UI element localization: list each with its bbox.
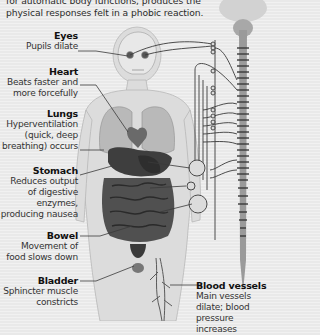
label-stomach-line-4: producing nausea [1, 209, 78, 220]
label-stomach-title: Stomach [1, 165, 78, 176]
label-heart: Heart Beats faster and more forcefully [7, 66, 78, 99]
label-heart-line-2: more forcefully [7, 88, 78, 99]
spinal-cord [219, 0, 267, 292]
label-lungs-title: Lungs [2, 108, 78, 119]
label-eyes-line: Pupils dilate [26, 41, 78, 52]
label-bladder-line-1: Sphincter muscle [3, 286, 78, 297]
label-stomach: Stomach Reduces output of digestive enzy… [1, 165, 78, 220]
label-bladder: Bladder Sphincter muscle constricts [3, 275, 78, 308]
label-bladder-line-2: constricts [3, 297, 78, 308]
label-stomach-line-2: of digestive [1, 187, 78, 198]
label-bowel-title: Bowel [6, 230, 78, 241]
label-lungs-line-3: breathing) occurs [2, 141, 78, 152]
label-heart-line-1: Beats faster and [7, 77, 78, 88]
label-lungs: Lungs Hyperventilation (quick, deep brea… [2, 108, 78, 152]
label-lungs-line-1: Hyperventilation [2, 119, 78, 130]
label-bladder-title: Bladder [3, 275, 78, 286]
label-stomach-line-1: Reduces output [1, 176, 78, 187]
label-blood-vessels-line-2: dilate; blood [196, 302, 274, 313]
label-blood-vessels: Blood vessels Main vessels dilate; blood… [196, 280, 274, 335]
label-eyes: Eyes Pupils dilate [26, 30, 78, 52]
label-stomach-line-3: enzymes, [1, 198, 78, 209]
label-blood-vessels-line-3: pressure increases [196, 313, 274, 335]
label-blood-vessels-line-1: Main vessels [196, 291, 274, 302]
label-bowel-line-2: food slows down [6, 252, 78, 263]
label-blood-vessels-title: Blood vessels [196, 280, 274, 291]
skull [118, 32, 156, 74]
label-lungs-line-2: (quick, deep [2, 130, 78, 141]
label-heart-title: Heart [7, 66, 78, 77]
label-bowel: Bowel Movement of food slows down [6, 230, 78, 263]
bladder [132, 263, 144, 273]
label-bowel-line-1: Movement of [6, 241, 78, 252]
label-eyes-title: Eyes [26, 30, 78, 41]
